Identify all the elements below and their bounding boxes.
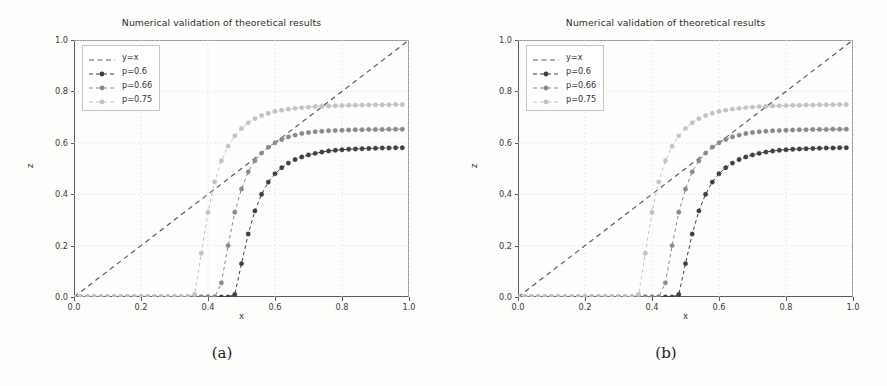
legend: y=xp=0.6p=0.66p=0.75 bbox=[526, 45, 604, 111]
x-tick-label: 1.0 bbox=[392, 302, 426, 312]
legend-swatch bbox=[532, 79, 560, 91]
y-axis-label: z bbox=[25, 164, 35, 168]
y-tick-mark bbox=[71, 194, 75, 195]
y-tick-mark bbox=[515, 143, 519, 144]
y-tick-label: 0.2 bbox=[40, 241, 68, 251]
y-tick-label: 0.8 bbox=[40, 86, 68, 96]
legend-item: y=x bbox=[532, 50, 596, 64]
y-tick-mark bbox=[71, 143, 75, 144]
x-tick-label: 0.4 bbox=[191, 302, 225, 312]
x-tick-mark bbox=[786, 297, 787, 301]
y-tick-mark bbox=[515, 40, 519, 41]
x-tick-mark bbox=[853, 297, 854, 301]
x-tick-mark bbox=[342, 297, 343, 301]
x-tick-label: 1.0 bbox=[836, 302, 870, 312]
legend-swatch bbox=[88, 93, 116, 105]
plot-title: Numerical validation of theoretical resu… bbox=[444, 17, 887, 28]
x-tick-label: 0.0 bbox=[501, 302, 535, 312]
axes-area: 0.00.20.40.60.81.00.00.20.40.60.81.0 y=x… bbox=[74, 40, 409, 297]
y-tick-mark bbox=[71, 40, 75, 41]
subfigure-caption-b: (b) bbox=[636, 344, 696, 362]
y-axis-label: z bbox=[469, 164, 479, 168]
legend: y=xp=0.6p=0.66p=0.75 bbox=[82, 45, 160, 111]
legend-item: y=x bbox=[88, 50, 152, 64]
y-tick-label: 1.0 bbox=[484, 35, 512, 45]
legend-swatch bbox=[532, 65, 560, 77]
x-axis-label: x bbox=[74, 311, 409, 321]
y-tick-mark bbox=[515, 194, 519, 195]
y-tick-label: 0.6 bbox=[484, 138, 512, 148]
x-tick-mark bbox=[208, 297, 209, 301]
x-tick-mark bbox=[585, 297, 586, 301]
legend-swatch bbox=[532, 93, 560, 105]
y-tick-label: 0.4 bbox=[484, 189, 512, 199]
y-tick-mark bbox=[71, 246, 75, 247]
x-tick-label: 0.0 bbox=[57, 302, 91, 312]
legend-swatch bbox=[88, 65, 116, 77]
y-tick-mark bbox=[71, 91, 75, 92]
plot-title: Numerical validation of theoretical resu… bbox=[0, 17, 443, 28]
y-tick-mark bbox=[515, 246, 519, 247]
legend-label: p=0.6 bbox=[566, 66, 591, 76]
legend-swatch bbox=[532, 51, 560, 63]
y-tick-label: 0.4 bbox=[40, 189, 68, 199]
legend-label: p=0.6 bbox=[122, 66, 147, 76]
legend-label: p=0.66 bbox=[122, 80, 152, 90]
legend-item: p=0.66 bbox=[532, 78, 596, 92]
x-tick-label: 0.8 bbox=[769, 302, 803, 312]
legend-label: p=0.66 bbox=[566, 80, 596, 90]
x-tick-label: 0.6 bbox=[702, 302, 736, 312]
x-tick-mark bbox=[409, 297, 410, 301]
x-tick-label: 0.4 bbox=[635, 302, 669, 312]
x-tick-mark bbox=[719, 297, 720, 301]
legend-item: p=0.66 bbox=[88, 78, 152, 92]
legend-item: p=0.75 bbox=[532, 92, 596, 106]
subfigure-caption-a: (a) bbox=[192, 344, 252, 362]
x-tick-mark bbox=[141, 297, 142, 301]
legend-label: y=x bbox=[122, 52, 139, 62]
y-tick-mark bbox=[515, 91, 519, 92]
axes-area: 0.00.20.40.60.81.00.00.20.40.60.81.0 y=x… bbox=[518, 40, 853, 297]
legend-label: p=0.75 bbox=[122, 94, 152, 104]
legend-item: p=0.6 bbox=[88, 64, 152, 78]
figure-container: Numerical validation of theoretical resu… bbox=[0, 0, 887, 386]
y-tick-label: 0.6 bbox=[40, 138, 68, 148]
x-tick-label: 0.2 bbox=[568, 302, 602, 312]
y-tick-label: 0.8 bbox=[484, 86, 512, 96]
x-tick-label: 0.6 bbox=[258, 302, 292, 312]
x-tick-label: 0.2 bbox=[124, 302, 158, 312]
y-tick-label: 0.2 bbox=[484, 241, 512, 251]
y-tick-label: 1.0 bbox=[40, 35, 68, 45]
x-tick-mark bbox=[652, 297, 653, 301]
x-tick-mark bbox=[275, 297, 276, 301]
legend-label: y=x bbox=[566, 52, 583, 62]
panel-a: Numerical validation of theoretical resu… bbox=[0, 0, 443, 340]
x-axis-label: x bbox=[518, 311, 853, 321]
x-tick-mark bbox=[518, 297, 519, 301]
legend-item: p=0.75 bbox=[88, 92, 152, 106]
x-tick-mark bbox=[74, 297, 75, 301]
legend-label: p=0.75 bbox=[566, 94, 596, 104]
legend-item: p=0.6 bbox=[532, 64, 596, 78]
y-tick-label: 0.0 bbox=[484, 292, 512, 302]
x-tick-label: 0.8 bbox=[325, 302, 359, 312]
y-tick-label: 0.0 bbox=[40, 292, 68, 302]
legend-swatch bbox=[88, 51, 116, 63]
panel-b: Numerical validation of theoretical resu… bbox=[444, 0, 887, 340]
legend-swatch bbox=[88, 79, 116, 91]
